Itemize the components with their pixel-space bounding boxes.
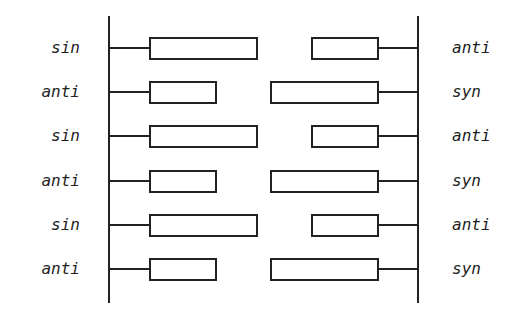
left-label: sin [0,38,80,58]
right-connector [378,135,418,137]
right-label: anti [452,126,491,146]
right-label: syn [452,259,481,279]
right-box-short [311,125,379,148]
left-box-short [149,170,217,193]
left-label: anti [0,259,80,279]
left-label: sin [0,126,80,146]
right-label: anti [452,215,491,235]
left-connector [109,268,149,270]
right-label: syn [452,82,481,102]
right-connector [378,91,418,93]
left-box-long [149,214,258,237]
right-box-long [270,170,379,193]
right-connector [378,47,418,49]
left-label: anti [0,171,80,191]
diagram-canvas: sin anti anti syn sin anti anti syn sin … [0,0,527,317]
right-connector [378,180,418,182]
left-backbone [108,16,110,303]
right-box-long [270,258,379,281]
right-box-short [311,37,379,60]
right-backbone [417,16,419,303]
left-box-short [149,258,217,281]
left-connector [109,91,149,93]
left-box-long [149,37,258,60]
right-connector [378,268,418,270]
left-box-long [149,125,258,148]
right-label: syn [452,171,481,191]
right-box-short [311,214,379,237]
left-connector [109,47,149,49]
left-label: sin [0,215,80,235]
right-box-long [270,81,379,104]
left-connector [109,135,149,137]
right-connector [378,224,418,226]
left-label: anti [0,82,80,102]
right-label: anti [452,38,491,58]
left-connector [109,180,149,182]
left-box-short [149,81,217,104]
left-connector [109,224,149,226]
